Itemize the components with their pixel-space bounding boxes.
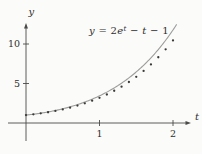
euler-dot [25,114,27,116]
euler-dot [76,104,78,106]
euler-dot [142,70,144,72]
dots-layer [25,39,174,116]
euler-dot [91,100,93,102]
x-axis-label: t [195,111,200,122]
euler-dot [98,97,100,99]
plot-canvas: 12510 t y [0,0,202,154]
euler-method-figure: 12510 t y y = 2et − t − 1 [0,0,202,154]
euler-dot [47,111,49,113]
y-tick-label: 5 [14,78,20,89]
euler-dot [106,93,108,95]
euler-dot [157,56,159,58]
x-tick-label: 1 [96,128,102,139]
y-axis-label: y [28,6,35,17]
y-tick-label: 10 [8,38,20,49]
euler-dot [165,48,167,50]
x-axis-arrow-icon [186,121,192,125]
euler-dot [120,86,122,88]
equation-part: − [127,25,143,36]
equation-label: y = 2et − t − 1 [89,25,169,36]
euler-dot [84,102,86,104]
solution-curve [26,24,177,115]
euler-dot [128,81,130,83]
ticks-layer: 12510 [8,38,176,138]
euler-dot [69,107,71,109]
euler-dot [172,39,174,41]
y-axis-arrow-icon [24,23,28,29]
x-tick-label: 2 [170,128,176,139]
equation-part: = 2 [95,25,117,36]
euler-dot [113,90,115,92]
euler-dot [54,110,56,112]
curve-layer [26,24,177,115]
euler-dot [32,113,34,115]
euler-dot [135,76,137,78]
equation-part: − 1 [147,25,169,36]
euler-dot [150,63,152,65]
euler-dot [62,108,64,110]
euler-dot [40,112,42,114]
